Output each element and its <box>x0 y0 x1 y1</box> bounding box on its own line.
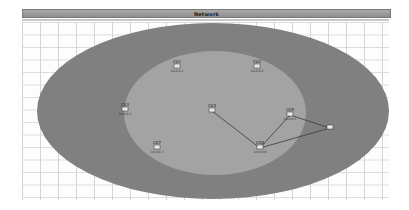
device-icon <box>327 125 333 129</box>
node-label: C03 <box>121 102 129 107</box>
device-icon <box>257 145 263 149</box>
node-label: C01 <box>173 59 181 64</box>
node-label: C02 <box>253 59 261 64</box>
window-titlebar[interactable]: Network <box>22 9 391 18</box>
network-node[interactable] <box>327 125 333 129</box>
node-address: 10.0.0.2 <box>250 69 263 73</box>
topology-canvas[interactable]: C0110.0.0.1C0210.0.0.2C0310.0.0.3C04C051… <box>22 22 389 200</box>
node-address: 10.0.0.3 <box>118 112 131 116</box>
device-icon <box>154 145 160 149</box>
node-address: 10.0.0.7 <box>150 150 163 154</box>
node-address: 10.0.0.5 <box>283 117 296 121</box>
node-label: C05 <box>286 107 294 112</box>
device-icon <box>254 64 260 68</box>
device-icon <box>287 112 293 116</box>
network-topology-map[interactable]: C0110.0.0.1C0210.0.0.2C0310.0.0.3C04C051… <box>22 22 389 200</box>
node-label: C07 <box>153 140 161 145</box>
toolbar-strip <box>22 19 389 21</box>
device-icon <box>209 108 215 112</box>
node-address: 10.0.0.1 <box>170 69 183 73</box>
network-node[interactable]: C04 <box>208 103 216 112</box>
node-address: 10.0.0.8 <box>253 150 266 154</box>
device-icon <box>174 64 180 68</box>
node-label: C04 <box>208 103 216 108</box>
window-title: Network <box>194 11 219 17</box>
node-label: C08 <box>256 140 264 145</box>
device-icon <box>122 107 128 111</box>
